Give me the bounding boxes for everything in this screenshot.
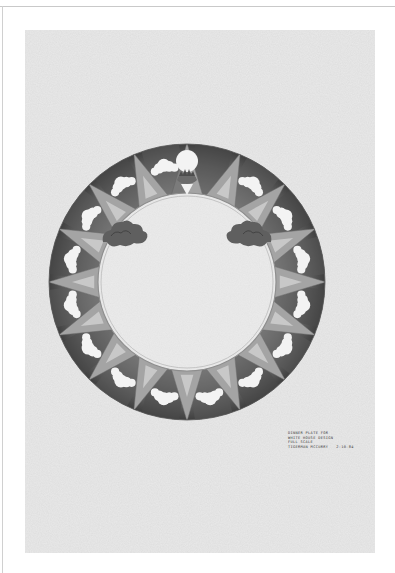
plate-drawing (25, 30, 375, 553)
author-name: Tigerman McCurry (288, 445, 328, 449)
frame-top-border (0, 6, 395, 7)
drawing-paper: Dinner plate for White House design Full… (25, 30, 375, 553)
frame-left-border (2, 6, 3, 573)
title-block: Dinner plate for White House design Full… (288, 431, 378, 449)
drawing-date: 2-10-84 (336, 445, 354, 449)
caption-line-4: Tigerman McCurry2-10-84 (288, 445, 378, 450)
